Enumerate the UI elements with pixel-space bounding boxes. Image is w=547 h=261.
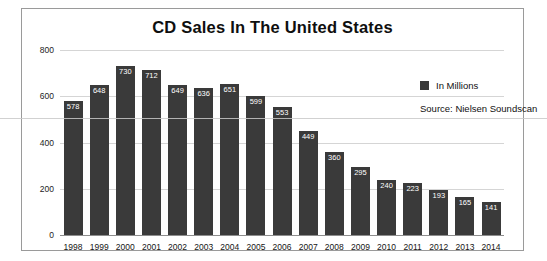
source-note: Source: Nielsen Soundscan <box>420 103 537 114</box>
x-axis-tick-label: 2005 <box>246 242 265 252</box>
x-axis-tick-label: 1998 <box>64 242 83 252</box>
bar: 578 <box>64 101 83 235</box>
bar-group: 1932012 <box>426 50 452 235</box>
bar-value-label: 730 <box>116 68 135 76</box>
chart-frame: CD Sales In The United States 0200400600… <box>21 8 524 251</box>
y-axis-tick-label: 200 <box>40 184 54 194</box>
x-axis-tick-label: 2014 <box>482 242 501 252</box>
y-axis-tick-label: 0 <box>49 230 54 240</box>
bar: 449 <box>299 131 318 235</box>
bar-group: 7302000 <box>112 50 138 235</box>
bar-group: 2232011 <box>400 50 426 235</box>
bar: 240 <box>377 180 396 236</box>
bar-value-label: 141 <box>482 204 501 212</box>
bar-group: 3602008 <box>321 50 347 235</box>
bar: 730 <box>116 66 135 235</box>
bar: 649 <box>168 85 187 235</box>
bar: 223 <box>403 183 422 235</box>
legend: In Millions <box>420 80 478 91</box>
x-axis-tick-label: 2009 <box>351 242 370 252</box>
bar-value-label: 449 <box>299 133 318 141</box>
x-axis-tick-label: 2000 <box>116 242 135 252</box>
bar-value-label: 651 <box>220 86 239 94</box>
bar-group: 6512004 <box>217 50 243 235</box>
bar: 599 <box>246 96 265 235</box>
y-axis-tick-label: 800 <box>40 45 54 55</box>
bar: 165 <box>455 197 474 235</box>
y-axis-tick-label: 600 <box>40 91 54 101</box>
bar-value-label: 165 <box>455 199 474 207</box>
bar-group: 6362003 <box>191 50 217 235</box>
bar: 636 <box>194 88 213 235</box>
bar-group: 6492002 <box>165 50 191 235</box>
bar: 193 <box>429 190 448 235</box>
bar-value-label: 193 <box>429 192 448 200</box>
bar-value-label: 223 <box>403 185 422 193</box>
bar-value-label: 648 <box>90 87 109 95</box>
x-axis-tick-label: 2006 <box>273 242 292 252</box>
bar-group: 7122001 <box>138 50 164 235</box>
bar-group: 4492007 <box>295 50 321 235</box>
x-axis-tick-label: 1999 <box>90 242 109 252</box>
bar-group: 5992005 <box>243 50 269 235</box>
bar-series: 5781998648199973020007122001649200263620… <box>60 50 504 235</box>
x-axis-tick-label: 2001 <box>142 242 161 252</box>
axis-baseline <box>60 235 504 236</box>
bar: 651 <box>220 84 239 235</box>
bar-value-label: 649 <box>168 87 187 95</box>
bar-group: 2402010 <box>374 50 400 235</box>
plot-area: 0200400600800 57819986481999730200071220… <box>60 50 504 235</box>
x-axis-tick-label: 2002 <box>168 242 187 252</box>
chart-title: CD Sales In The United States <box>22 18 523 37</box>
bar-value-label: 599 <box>246 98 265 106</box>
x-axis-tick-label: 2007 <box>299 242 318 252</box>
bar-group: 5532006 <box>269 50 295 235</box>
bar-value-label: 578 <box>64 103 83 111</box>
x-axis-tick-label: 2012 <box>429 242 448 252</box>
legend-label-in-millions: In Millions <box>436 80 478 91</box>
bar: 141 <box>482 202 501 235</box>
bar-value-label: 360 <box>325 154 344 162</box>
bar-group: 5781998 <box>60 50 86 235</box>
bar: 712 <box>142 70 161 235</box>
bar-group: 1412014 <box>478 50 504 235</box>
bar-value-label: 240 <box>377 182 396 190</box>
x-axis-tick-label: 2008 <box>325 242 344 252</box>
bar: 360 <box>325 152 344 235</box>
bar-value-label: 295 <box>351 169 370 177</box>
bar: 295 <box>351 167 370 235</box>
bar-group: 1652013 <box>452 50 478 235</box>
bar-value-label: 636 <box>194 90 213 98</box>
x-axis-tick-label: 2010 <box>377 242 396 252</box>
x-axis-tick-label: 2013 <box>455 242 474 252</box>
bar-group: 6481999 <box>86 50 112 235</box>
x-axis-tick-label: 2011 <box>404 242 422 252</box>
x-axis-tick-label: 2003 <box>194 242 213 252</box>
x-axis-tick-label: 2004 <box>220 242 239 252</box>
y-axis-tick-label: 400 <box>40 138 54 148</box>
bar-value-label: 712 <box>142 72 161 80</box>
bar: 648 <box>90 85 109 235</box>
bar: 553 <box>273 107 292 235</box>
bar-group: 2952009 <box>347 50 373 235</box>
legend-swatch-in-millions <box>420 81 429 90</box>
bar-value-label: 553 <box>273 109 292 117</box>
